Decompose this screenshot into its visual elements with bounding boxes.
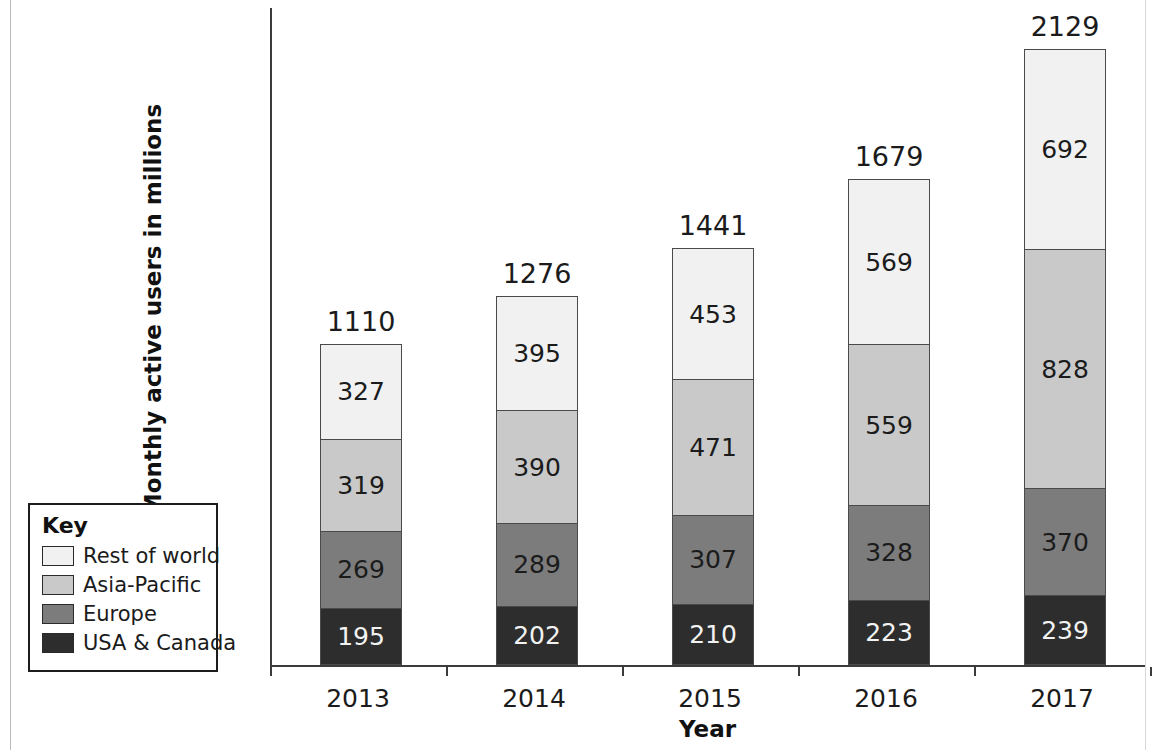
bar-segment-europe-2017[interactable]: 370 xyxy=(1025,488,1105,595)
x-tick-mark xyxy=(1150,667,1152,676)
segment-value-label: 559 xyxy=(865,413,913,438)
x-tick-label-2015: 2015 xyxy=(622,684,798,713)
bar-group-2017[interactable]: 6928283702392129 xyxy=(974,8,1150,665)
segment-value-label: 828 xyxy=(1041,357,1089,382)
segment-value-label: 395 xyxy=(513,341,561,366)
bar-segment-europe-2016[interactable]: 328 xyxy=(849,505,929,600)
legend-item-label: Europe xyxy=(83,602,157,626)
y-axis-title: Monthly active users in millions xyxy=(140,100,166,520)
x-tick-mark xyxy=(270,667,272,676)
segment-value-label: 453 xyxy=(689,302,737,327)
plot-area: 3273192691951110395390289202127645347130… xyxy=(270,8,1145,666)
x-tick-label-2016: 2016 xyxy=(798,684,974,713)
x-tick-mark xyxy=(798,667,800,676)
bar-group-2013[interactable]: 3273192691951110 xyxy=(270,8,446,665)
page-border-left xyxy=(10,0,11,750)
segment-value-label: 239 xyxy=(1041,618,1089,643)
bar-total-label-2013: 1110 xyxy=(320,308,402,335)
legend-swatch-icon xyxy=(42,604,74,624)
segment-value-label: 390 xyxy=(513,455,561,480)
bar-total-label-2015: 1441 xyxy=(672,212,754,239)
bar-segment-rest-of-world-2017[interactable]: 692 xyxy=(1025,50,1105,250)
segment-value-label: 692 xyxy=(1041,137,1089,162)
segment-value-label: 569 xyxy=(865,250,913,275)
bar-group-2014[interactable]: 3953902892021276 xyxy=(446,8,622,665)
x-axis-title: Year xyxy=(270,716,1145,742)
legend-title: Key xyxy=(42,513,208,538)
segment-value-label: 195 xyxy=(337,624,385,649)
bar-segment-europe-2014[interactable]: 289 xyxy=(497,523,577,606)
bar-segment-asia-pacific-2014[interactable]: 390 xyxy=(497,410,577,522)
legend-item-asia-pacific[interactable]: Asia-Pacific xyxy=(42,573,208,597)
segment-value-label: 327 xyxy=(337,379,385,404)
legend-item-europe[interactable]: Europe xyxy=(42,602,208,626)
x-tick-label-2014: 2014 xyxy=(446,684,622,713)
legend-item-label: Rest of world xyxy=(83,544,220,568)
legend-item-usa-canada[interactable]: USA & Canada xyxy=(42,631,208,655)
legend-swatch-icon xyxy=(42,575,74,595)
bar-segment-asia-pacific-2015[interactable]: 471 xyxy=(673,379,753,515)
bar-segment-rest-of-world-2015[interactable]: 453 xyxy=(673,249,753,379)
x-tick-label-2013: 2013 xyxy=(270,684,446,713)
segment-value-label: 328 xyxy=(865,540,913,565)
x-axis-line xyxy=(270,665,1145,667)
segment-value-label: 319 xyxy=(337,473,385,498)
bar-segment-usa-canada-2015[interactable]: 210 xyxy=(673,604,753,664)
legend-item-rest-of-world[interactable]: Rest of world xyxy=(42,544,208,568)
legend-swatch-icon xyxy=(42,546,74,566)
bar-segment-rest-of-world-2016[interactable]: 569 xyxy=(849,180,929,344)
stacked-bar-2017[interactable]: 692828370239 xyxy=(1024,49,1106,665)
bar-total-label-2017: 2129 xyxy=(1024,13,1106,40)
chart-page: Monthly active users in millions 3273192… xyxy=(0,0,1157,750)
bar-group-2016[interactable]: 5695593282231679 xyxy=(798,8,974,665)
bar-segment-rest-of-world-2013[interactable]: 327 xyxy=(321,345,401,439)
bar-segment-europe-2015[interactable]: 307 xyxy=(673,515,753,603)
legend: Key Rest of worldAsia-PacificEuropeUSA &… xyxy=(28,503,218,672)
bar-segment-europe-2013[interactable]: 269 xyxy=(321,531,401,608)
x-tick-mark xyxy=(974,667,976,676)
bars-layer: 3273192691951110395390289202127645347130… xyxy=(270,8,1145,665)
x-tick-label-2017: 2017 xyxy=(974,684,1150,713)
bar-segment-asia-pacific-2017[interactable]: 828 xyxy=(1025,249,1105,488)
segment-value-label: 210 xyxy=(689,622,737,647)
legend-item-label: Asia-Pacific xyxy=(83,573,201,597)
bar-total-label-2016: 1679 xyxy=(848,143,930,170)
segment-value-label: 223 xyxy=(865,620,913,645)
segment-value-label: 370 xyxy=(1041,530,1089,555)
segment-value-label: 307 xyxy=(689,547,737,572)
legend-swatch-icon xyxy=(42,633,74,653)
segment-value-label: 289 xyxy=(513,552,561,577)
bar-segment-usa-canada-2013[interactable]: 195 xyxy=(321,608,401,664)
segment-value-label: 269 xyxy=(337,557,385,582)
legend-item-label: USA & Canada xyxy=(83,631,236,655)
bar-segment-usa-canada-2016[interactable]: 223 xyxy=(849,600,929,664)
bar-segment-asia-pacific-2013[interactable]: 319 xyxy=(321,439,401,531)
stacked-bar-2016[interactable]: 569559328223 xyxy=(848,179,930,665)
bar-group-2015[interactable]: 4534713072101441 xyxy=(622,8,798,665)
segment-value-label: 202 xyxy=(513,623,561,648)
bar-segment-rest-of-world-2014[interactable]: 395 xyxy=(497,297,577,411)
bar-segment-usa-canada-2017[interactable]: 239 xyxy=(1025,595,1105,664)
stacked-bar-2014[interactable]: 395390289202 xyxy=(496,296,578,665)
stacked-bar-2015[interactable]: 453471307210 xyxy=(672,248,754,665)
legend-items: Rest of worldAsia-PacificEuropeUSA & Can… xyxy=(40,544,208,655)
bar-total-label-2014: 1276 xyxy=(496,260,578,287)
segment-value-label: 471 xyxy=(689,435,737,460)
stacked-bar-2013[interactable]: 327319269195 xyxy=(320,344,402,665)
x-tick-mark xyxy=(622,667,624,676)
bar-segment-usa-canada-2014[interactable]: 202 xyxy=(497,606,577,664)
bar-segment-asia-pacific-2016[interactable]: 559 xyxy=(849,344,929,505)
x-tick-mark xyxy=(446,667,448,676)
